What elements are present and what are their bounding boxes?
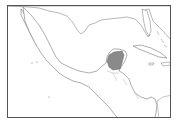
cuba — [133, 45, 167, 58]
map-canvas — [8, 6, 171, 118]
hispaniola — [161, 62, 171, 66]
pacific-island — [48, 96, 49, 97]
jamaica — [149, 63, 154, 65]
map-frame — [7, 5, 171, 118]
pacific-island — [31, 62, 32, 63]
pacific-island — [36, 61, 37, 62]
south-america — [157, 95, 171, 118]
